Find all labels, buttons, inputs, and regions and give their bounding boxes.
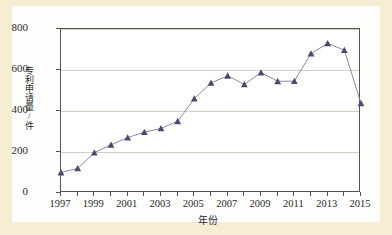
series-line-and-markers — [61, 29, 361, 193]
data-point-2008 — [241, 81, 248, 87]
x-tick-mark-2013 — [327, 192, 328, 196]
x-tick-mark-2012 — [310, 192, 311, 196]
x-tick-label-2013: 2013 — [310, 199, 344, 210]
data-point-2007 — [224, 72, 231, 78]
x-tick-mark-2004 — [177, 192, 178, 196]
x-tick-mark-1999 — [93, 192, 94, 196]
y-tick-label-0: 0 — [0, 186, 28, 197]
x-tick-mark-2015 — [360, 192, 361, 196]
data-point-2000 — [108, 141, 115, 147]
plot-area — [60, 28, 360, 192]
x-tick-mark-2007 — [227, 192, 228, 196]
x-tick-label-2001: 2001 — [110, 199, 144, 210]
x-tick-label-2003: 2003 — [143, 199, 177, 210]
x-tick-label-2005: 2005 — [176, 199, 210, 210]
data-point-2004 — [174, 118, 181, 124]
data-point-2014 — [341, 47, 348, 53]
y-tick-mark-800 — [56, 28, 60, 29]
data-point-2006 — [208, 80, 215, 86]
x-tick-label-2009: 2009 — [243, 199, 277, 210]
x-tick-mark-2000 — [110, 192, 111, 196]
x-tick-mark-2008 — [243, 192, 244, 196]
x-tick-mark-1997 — [60, 192, 61, 196]
x-tick-mark-2006 — [210, 192, 211, 196]
data-point-2003 — [158, 125, 165, 131]
x-tick-mark-1998 — [77, 192, 78, 196]
x-tick-label-2011: 2011 — [276, 199, 310, 210]
data-point-2009 — [258, 69, 265, 75]
x-tick-mark-2001 — [127, 192, 128, 196]
data-point-2013 — [324, 40, 331, 46]
x-axis-label: 年份 — [12, 212, 392, 227]
x-tick-label-1999: 1999 — [76, 199, 110, 210]
y-tick-label-200: 200 — [0, 145, 28, 156]
y-tick-mark-400 — [56, 110, 60, 111]
x-tick-mark-2005 — [193, 192, 194, 196]
y-tick-label-600: 600 — [0, 63, 28, 74]
x-tick-mark-2010 — [277, 192, 278, 196]
x-tick-mark-2011 — [293, 192, 294, 196]
series-markers — [58, 40, 365, 175]
data-point-2012 — [308, 50, 315, 56]
x-tick-mark-2003 — [160, 192, 161, 196]
data-point-1999 — [91, 149, 98, 155]
y-axis-label: 专利申请量/件 — [20, 66, 34, 130]
y-tick-mark-200 — [56, 151, 60, 152]
x-tick-label-1997: 1997 — [43, 199, 77, 210]
chart-page: 专利申请量/件 0200400600800 199719992001200320… — [0, 0, 392, 235]
data-point-2001 — [124, 134, 131, 140]
y-tick-label-800: 800 — [0, 22, 28, 33]
data-point-2015 — [358, 100, 365, 106]
y-tick-mark-600 — [56, 69, 60, 70]
y-tick-label-400: 400 — [0, 104, 28, 115]
x-tick-mark-2009 — [260, 192, 261, 196]
chart-panel: 专利申请量/件 0200400600800 199719992001200320… — [12, 6, 380, 222]
x-tick-mark-2002 — [143, 192, 144, 196]
x-tick-mark-2014 — [343, 192, 344, 196]
series-polyline — [61, 43, 361, 172]
x-tick-label-2007: 2007 — [210, 199, 244, 210]
x-tick-label-2015: 2015 — [343, 199, 377, 210]
